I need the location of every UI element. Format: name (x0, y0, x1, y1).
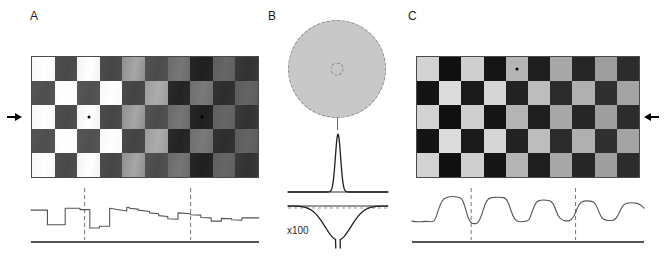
checker-cell (439, 105, 461, 129)
checker-cell (528, 81, 550, 105)
checker-cell (484, 129, 506, 153)
checker-cell (55, 81, 78, 105)
checker-cell (484, 81, 506, 105)
checker-cell (617, 81, 639, 105)
checker-cell (168, 105, 191, 129)
panel-c-row-arrow (644, 113, 651, 121)
checker-cell (55, 153, 78, 177)
checker-cell (32, 129, 55, 153)
checker-cell (595, 153, 617, 177)
checker-cell (439, 129, 461, 153)
checker-cell (55, 105, 78, 129)
kernel-center-profile (288, 134, 388, 192)
checker-cell (617, 57, 639, 81)
checker-cell (122, 129, 145, 153)
checker-cell (506, 81, 528, 105)
checker-cell (100, 105, 123, 129)
checker-cell (572, 105, 594, 129)
panel-label-b: B (268, 10, 276, 22)
checker-cell (190, 81, 213, 105)
checker-cell (77, 81, 100, 105)
checker-cell (461, 57, 483, 81)
checker-cell (168, 81, 191, 105)
checker-cell (32, 105, 55, 129)
checker-cell (235, 153, 258, 177)
checker-cell (417, 81, 439, 105)
checker-cell (190, 57, 213, 81)
checker-cell (145, 105, 168, 129)
checker-cell (572, 129, 594, 153)
checker-cell (100, 129, 123, 153)
checker-cell (461, 105, 483, 129)
checker-cell (145, 129, 168, 153)
checker-cell (122, 105, 145, 129)
checker-cell (32, 57, 55, 81)
checker-cell (595, 129, 617, 153)
trace-path (31, 207, 259, 228)
checker-cell (461, 129, 483, 153)
panel-a-row-arrow (15, 113, 22, 121)
fixation-dot (200, 116, 203, 119)
checker-cell (528, 129, 550, 153)
checker-cell (77, 129, 100, 153)
checker-cell (122, 153, 145, 177)
checker-cell (168, 129, 191, 153)
panel-c-checkerboard (416, 56, 640, 178)
checker-cell (506, 129, 528, 153)
checker-cell (550, 57, 572, 81)
checker-cell (417, 153, 439, 177)
checker-cell (484, 105, 506, 129)
checker-cell (235, 129, 258, 153)
checker-cell (484, 57, 506, 81)
checker-cell (145, 57, 168, 81)
checker-cell (506, 153, 528, 177)
checker-cell (55, 129, 78, 153)
checker-cell (213, 129, 236, 153)
checker-cell (190, 153, 213, 177)
checker-cell (168, 57, 191, 81)
checker-cell (417, 57, 439, 81)
panel-c-response-trace (412, 186, 644, 248)
checker-cell (77, 57, 100, 81)
fixation-dot (515, 68, 518, 71)
checker-cell (55, 57, 78, 81)
checker-cell (417, 105, 439, 129)
checker-cell (168, 153, 191, 177)
checker-cell (417, 129, 439, 153)
checker-cell (213, 153, 236, 177)
checker-cell (550, 129, 572, 153)
panel-a-luminance-trace (31, 186, 259, 248)
checker-cell (595, 105, 617, 129)
receptive-field-disc (288, 20, 386, 118)
checker-cell (122, 81, 145, 105)
checker-cell (100, 153, 123, 177)
panel-label-a: A (30, 10, 38, 22)
checker-cell (617, 153, 639, 177)
checker-cell (439, 153, 461, 177)
checker-cell (572, 81, 594, 105)
checker-cell (439, 57, 461, 81)
checker-cell (506, 105, 528, 129)
checker-cell (528, 105, 550, 129)
figure-canvas: A B x100 C (0, 0, 667, 258)
checker-cell (145, 153, 168, 177)
checker-cell (213, 57, 236, 81)
fixation-dot (87, 116, 90, 119)
checker-cell (528, 153, 550, 177)
checker-cell (439, 81, 461, 105)
checker-cell (235, 105, 258, 129)
checker-cell (213, 105, 236, 129)
receptive-field-stem (337, 118, 338, 130)
checker-cell (550, 105, 572, 129)
checker-cell (122, 57, 145, 81)
checker-cell (461, 153, 483, 177)
checker-cell (235, 57, 258, 81)
checker-cell (572, 57, 594, 81)
kernel-surround-right-lobe (340, 206, 388, 248)
checker-cell (617, 105, 639, 129)
checker-cell (550, 81, 572, 105)
checker-cell (528, 57, 550, 81)
trace-path (412, 197, 644, 224)
checker-cell (145, 81, 168, 105)
checker-cell (32, 81, 55, 105)
